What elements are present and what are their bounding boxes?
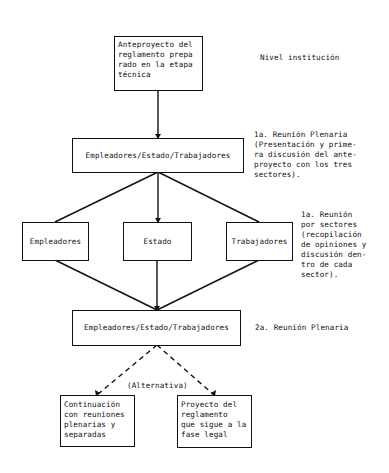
node-continuacion: Continuación con reuniones plenarias y s… [60, 395, 135, 447]
label-nivel-institucion: Nivel institución [260, 53, 339, 63]
node-plenaria1: Empleadores/Estado/Trabajadores [72, 138, 244, 173]
edge-plenaria1-trabajadores [158, 172, 259, 222]
edge-empleadores-plenaria2 [55, 260, 157, 310]
edge-plenaria1-empleadores [55, 172, 158, 222]
node-empleadores: Empleadores [22, 222, 89, 261]
label-reunion-por-sectores: 1a. Reunión por sectores (recopilación d… [301, 210, 366, 280]
label-alternativa: (Alternativa) [127, 381, 188, 391]
node-plenaria2: Empleadores/Estado/Trabajadores [72, 310, 241, 346]
node-trabajadores: Trabajadores [226, 222, 293, 261]
node-estado: Estado [123, 222, 192, 261]
label-segunda-reunion-plenaria: 2a. Reunión Plenaria [255, 323, 348, 333]
node-proyecto: Proyecto del reglamento que sigue a la f… [177, 395, 252, 448]
node-anteproyecto: Anteproyecto del reglamento prepa rado e… [114, 36, 203, 91]
edge-trabajadores-plenaria2 [157, 260, 259, 310]
label-primera-reunion-plenaria: 1a. Reunión Plenaria (Presentación y pri… [254, 130, 357, 180]
